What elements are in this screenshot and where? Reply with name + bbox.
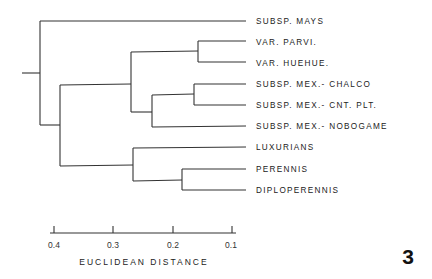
tick-label-0-2: 0.2 bbox=[167, 240, 179, 250]
branch-to-node-b bbox=[60, 84, 131, 85]
tick-label-0-3: 0.3 bbox=[107, 240, 119, 250]
leaf-label-chalco: SUBSP. MEX.- CHALCO bbox=[256, 80, 371, 89]
branch-to-node-d bbox=[60, 165, 133, 166]
x-axis: 0.4 0.3 0.2 0.1 EUCLIDEAN DISTANCE bbox=[48, 226, 237, 267]
tick-label-0-4: 0.4 bbox=[48, 240, 60, 250]
leaf-label-cntplt: SUBSP. MEX.- CNT. PLT. bbox=[256, 101, 377, 110]
leaf-label-diploperennis: DIPLOPERENNIS bbox=[256, 186, 339, 195]
leaf-labels: SUBSP. MAYS VAR. PARVI. VAR. HUEHUE. SUB… bbox=[256, 17, 388, 195]
leaf-label-nobogame: SUBSP. MEX.- NOBOGAME bbox=[256, 122, 388, 131]
branch-to-perennis-node bbox=[133, 180, 182, 181]
axis-title: EUCLIDEAN DISTANCE bbox=[79, 257, 208, 267]
branch-nobogame bbox=[152, 126, 246, 127]
leaf-label-perennis: PERENNIS bbox=[256, 165, 308, 174]
leaf-label-luxurians: LUXURIANS bbox=[256, 143, 315, 152]
dendrogram-branches bbox=[22, 21, 246, 190]
branch-luxurians bbox=[133, 147, 246, 148]
leaf-label-parvi: VAR. PARVI. bbox=[256, 38, 317, 47]
dendrogram-chart: SUBSP. MAYS VAR. PARVI. VAR. HUEHUE. SUB… bbox=[0, 0, 432, 279]
branch-to-chalco-node bbox=[152, 94, 194, 95]
tick-label-0-1: 0.1 bbox=[225, 240, 237, 250]
figure-number: 3 bbox=[402, 245, 414, 268]
leaf-label-mays: SUBSP. MAYS bbox=[256, 17, 324, 26]
leaf-label-huehue: VAR. HUEHUE. bbox=[256, 59, 329, 68]
branch-to-parvi-node bbox=[131, 51, 198, 52]
